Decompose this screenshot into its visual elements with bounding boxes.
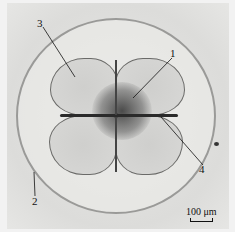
label-3: 3	[37, 18, 43, 29]
label-1: 1	[170, 48, 176, 59]
label-2: 2	[32, 196, 38, 207]
scale-bar	[190, 218, 213, 222]
scale-bar-label: 100 μm	[186, 206, 217, 217]
label-4: 4	[199, 164, 205, 175]
